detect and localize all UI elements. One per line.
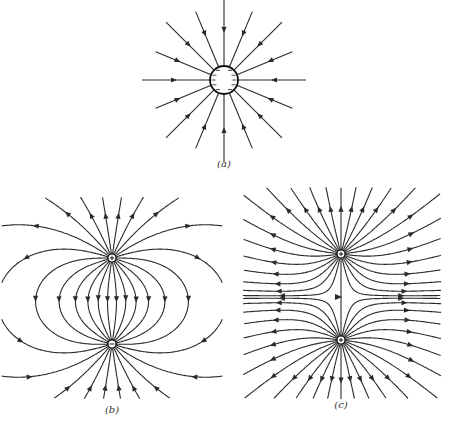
arrowhead-icon xyxy=(402,300,408,305)
field-line xyxy=(345,343,408,399)
field-line xyxy=(115,198,179,254)
field-line xyxy=(84,349,110,399)
field-line xyxy=(344,310,441,336)
field-line xyxy=(156,85,211,108)
arrowhead-icon xyxy=(270,248,276,253)
arrowhead-icon xyxy=(162,296,167,302)
field-line xyxy=(108,263,112,341)
arrowhead-icon xyxy=(270,373,276,379)
field-line xyxy=(313,344,339,398)
field-line xyxy=(76,261,109,342)
arrowhead-icon xyxy=(308,375,314,381)
field-line xyxy=(115,348,170,398)
arrowhead-icon xyxy=(269,215,275,221)
arrowhead-icon xyxy=(185,224,191,229)
arrowhead-icon xyxy=(146,296,151,302)
arrowhead-icon xyxy=(404,281,410,286)
panel-b-label: (b) xyxy=(105,404,119,415)
field-line xyxy=(244,330,337,339)
field-line xyxy=(346,341,441,376)
field-line xyxy=(114,197,143,253)
arrowhead-icon xyxy=(406,260,412,265)
arrowhead-icon xyxy=(134,296,139,302)
arrowhead-icon xyxy=(221,27,226,33)
field-line xyxy=(117,319,223,353)
field-line xyxy=(45,198,108,254)
field-line xyxy=(245,342,337,398)
field-line xyxy=(2,249,108,283)
arrowhead-icon xyxy=(171,77,177,82)
arrowhead-icon xyxy=(221,127,226,133)
field-line xyxy=(346,255,441,264)
arrowhead-icon xyxy=(407,247,414,252)
arrowhead-icon xyxy=(270,329,276,334)
arrowhead-icon xyxy=(105,296,110,302)
field-line xyxy=(54,348,108,398)
arrowhead-icon xyxy=(405,373,411,379)
field-line xyxy=(243,258,337,284)
field-line xyxy=(2,347,108,378)
field-line xyxy=(116,261,149,342)
arrowhead-icon xyxy=(33,296,38,302)
field-line-figure: (a) (b) (c) xyxy=(0,0,452,423)
arrowhead-icon xyxy=(270,260,276,265)
arrowhead-icon xyxy=(104,213,109,219)
panel-a-negative-sphere xyxy=(142,0,306,162)
field-line xyxy=(196,93,219,148)
field-line xyxy=(81,197,110,253)
field-line xyxy=(113,349,121,399)
field-line xyxy=(244,256,337,265)
arrowhead-icon xyxy=(33,224,39,229)
arrowhead-icon xyxy=(56,296,61,302)
field-line xyxy=(113,263,117,341)
field-line xyxy=(2,319,108,353)
field-line xyxy=(346,342,438,398)
field-line xyxy=(244,195,336,252)
arrowhead-icon xyxy=(373,207,379,213)
arrowhead-icon xyxy=(329,206,334,212)
arrowhead-icon xyxy=(348,206,353,212)
panel-b-dipole xyxy=(2,197,223,399)
arrowhead-icon xyxy=(406,329,412,334)
field-line xyxy=(104,349,112,399)
field-line xyxy=(229,93,252,148)
arrowhead-icon xyxy=(276,289,282,294)
field-line xyxy=(116,258,188,344)
field-line xyxy=(2,225,108,256)
arrowhead-icon xyxy=(96,295,101,301)
field-line xyxy=(345,188,415,251)
arrowhead-icon xyxy=(115,213,120,219)
panel-a-label: (a) xyxy=(217,158,231,169)
arrowhead-icon xyxy=(274,281,280,286)
field-line xyxy=(116,347,222,378)
arrowhead-icon xyxy=(330,376,335,382)
arrowhead-icon xyxy=(17,337,23,342)
arrowhead-icon xyxy=(117,385,122,391)
arrowhead-icon xyxy=(270,341,276,346)
arrowhead-icon xyxy=(404,308,410,313)
arrowhead-icon xyxy=(273,272,279,277)
arrowhead-icon xyxy=(201,337,207,342)
field-line xyxy=(103,197,112,253)
arrowhead-icon xyxy=(274,308,280,313)
field-line xyxy=(117,249,223,283)
arrowhead-icon xyxy=(273,317,279,322)
arrowhead-icon xyxy=(123,295,128,301)
arrowhead-icon xyxy=(369,375,375,381)
field-line xyxy=(267,188,337,251)
arrowhead-icon xyxy=(338,377,343,383)
field-line xyxy=(346,218,441,253)
field-line xyxy=(196,12,219,67)
field-line xyxy=(243,219,336,253)
panel-c-label: (c) xyxy=(334,399,347,410)
field-line xyxy=(114,263,126,341)
field-line xyxy=(113,197,122,253)
field-line xyxy=(243,310,337,336)
arrowhead-icon xyxy=(338,206,343,212)
arrowhead-icon xyxy=(304,207,310,213)
arrowhead-icon xyxy=(186,296,191,302)
field-line xyxy=(243,341,336,375)
field-line xyxy=(237,85,292,108)
field-line xyxy=(114,349,140,399)
arrowhead-icon xyxy=(114,296,119,302)
